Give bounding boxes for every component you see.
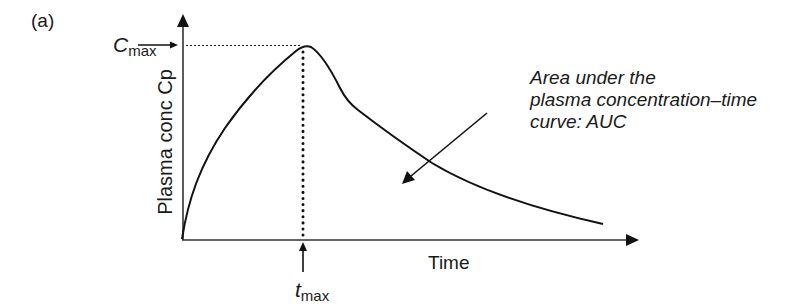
x-axis-arrowhead [626, 234, 639, 246]
x-axis-label: Time [428, 252, 470, 274]
auc-annotation: Area under the plasma concentration–time… [530, 67, 757, 133]
cmax-arrowhead [170, 42, 178, 49]
y-axis-label: Plasma conc Cp [154, 69, 177, 215]
cmax-label-main: C [113, 33, 128, 56]
panel-label: (a) [31, 10, 54, 32]
cmax-label: Cmax [113, 33, 157, 59]
auc-arrow [411, 113, 487, 176]
tmax-arrowhead [299, 242, 307, 251]
tmax-label-sub: max [301, 287, 329, 304]
cmax-label-sub: max [128, 42, 156, 59]
auc-annotation-line-2: plasma concentration–time [530, 89, 757, 111]
y-axis-arrowhead [177, 14, 189, 27]
auc-annotation-line-3: curve: AUC [530, 111, 757, 133]
auc-arrowhead [402, 171, 415, 184]
auc-annotation-line-1: Area under the [530, 67, 757, 89]
tmax-label: tmax [295, 278, 329, 304]
